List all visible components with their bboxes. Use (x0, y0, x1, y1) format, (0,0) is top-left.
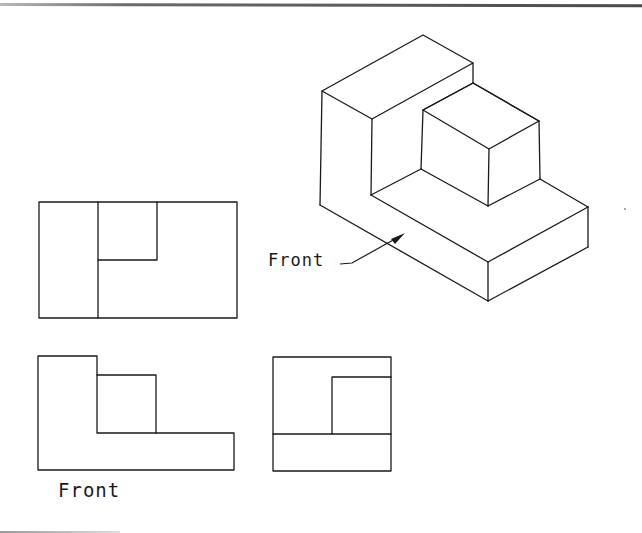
iso-base-top-right-edge (488, 207, 588, 262)
front-view-outline (38, 356, 234, 470)
iso-base-top-right-back-edge (540, 179, 588, 207)
iso-cube-front-vertical (488, 149, 489, 206)
iso-back-slab-left-edge (320, 91, 322, 205)
front-view-label: Front (58, 481, 120, 500)
iso-cube-left-vertical (421, 110, 423, 169)
isometric-front-label: Front (268, 252, 324, 269)
iso-back-slab-top-face (322, 35, 473, 119)
iso-base-top-front-edge (371, 195, 488, 262)
top-view (39, 202, 237, 318)
iso-back-slab-inner-vertical (371, 119, 372, 195)
iso-base-inner-back-edge (371, 169, 421, 195)
side-view (273, 357, 391, 471)
iso-cube-top-face (423, 83, 539, 149)
front-arrowhead-icon (391, 233, 405, 244)
isometric-view (320, 35, 588, 301)
top-view-cube-outline (98, 202, 157, 260)
iso-cube-bottom-right-edge (488, 179, 540, 206)
front-view-cube-outline (97, 375, 156, 433)
iso-base-bottom-right-edge (488, 247, 588, 301)
side-view-cube-outline (332, 377, 391, 434)
front-view (38, 356, 234, 470)
iso-cube-right-vertical (539, 121, 540, 179)
iso-cube-bottom-left-edge (421, 169, 488, 206)
iso-base-bottom-left-edge (320, 205, 488, 301)
